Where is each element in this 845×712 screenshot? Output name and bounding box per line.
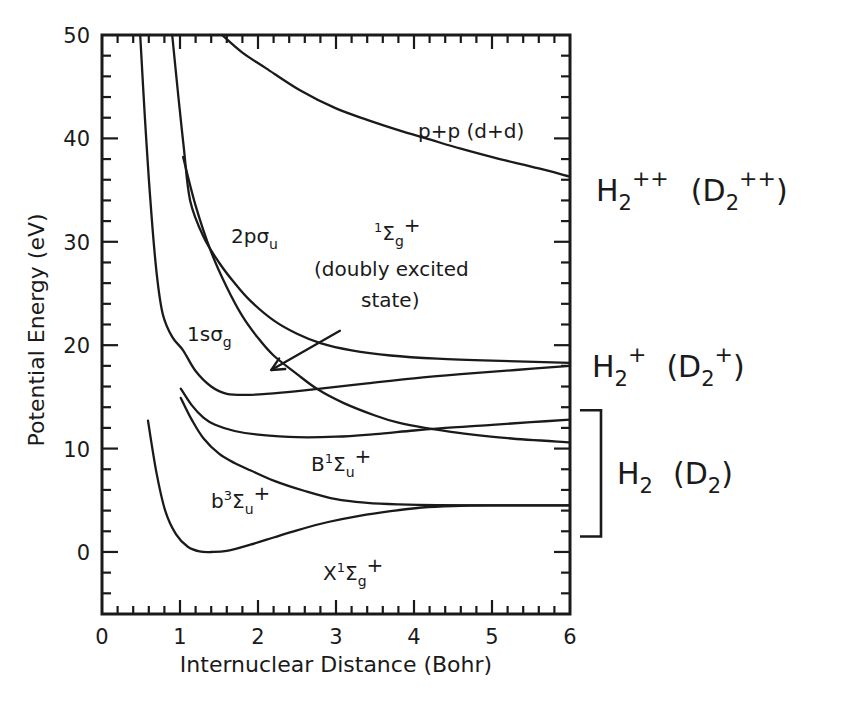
label-pp: p+p (d+d): [418, 119, 524, 143]
y-tick-label: 10: [63, 438, 90, 462]
x-tick-label: 6: [563, 625, 576, 649]
y-tick-label: 50: [63, 24, 90, 48]
label-b3Sigma-u: b3Σu+: [211, 481, 270, 517]
curve-x1sigma-g: [148, 421, 570, 552]
label-B1Sigma-u: B1Σu+: [311, 444, 371, 480]
curve-p-p-d-d: [222, 35, 570, 177]
axis-ticks: 012345601020304050: [63, 24, 576, 649]
label-X1Sigma-g: X1Σg+: [323, 553, 383, 589]
x-tick-label: 3: [329, 625, 342, 649]
label-h2-neutral: H2(D2): [617, 456, 733, 498]
potential-energy-chart: 012345601020304050 Potential Energy (eV)…: [0, 0, 845, 712]
y-tick-label: 20: [63, 334, 90, 358]
x-tick-label: 2: [251, 625, 264, 649]
y-tick-label: 30: [63, 231, 90, 255]
label-1sigma-g-plus: 1Σg+: [374, 213, 421, 249]
curve-2p-sigma-u: [172, 35, 570, 363]
y-axis-label: Potential Energy (eV): [24, 213, 49, 446]
label-state: state): [361, 288, 419, 312]
label-1ssigma-g: 1sσg: [187, 322, 232, 350]
x-tick-label: 1: [173, 625, 186, 649]
x-axis-label: Internuclear Distance (Bohr): [180, 652, 492, 677]
label-2psigma-u: 2pσu: [231, 224, 278, 252]
h2-bracket: [580, 410, 601, 536]
y-tick-label: 40: [63, 127, 90, 151]
x-tick-label: 4: [407, 625, 420, 649]
x-tick-label: 0: [95, 625, 108, 649]
curves: [140, 35, 570, 552]
label-h2-ion: H2+(D2+): [592, 342, 745, 391]
label-doubly-excited: (doubly excited: [314, 257, 469, 281]
label-h2-doubly-ionized: H2++(D2++): [596, 166, 788, 215]
x-tick-label: 5: [485, 625, 498, 649]
y-tick-label: 0: [77, 541, 90, 565]
